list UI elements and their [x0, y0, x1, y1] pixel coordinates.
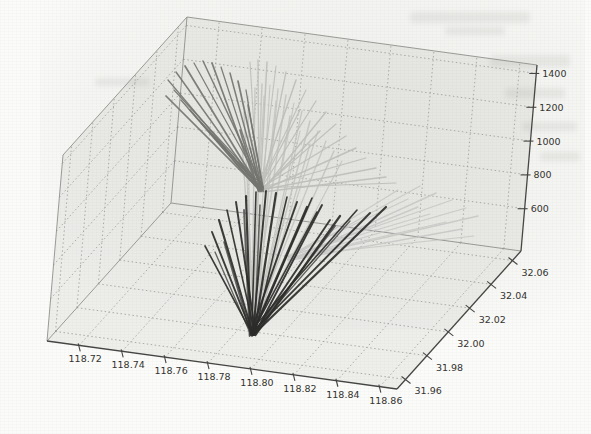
z-tick-label: 800 [534, 169, 552, 180]
y-tick-label: 32.02 [479, 314, 506, 325]
x-tick-label: 118.72 [69, 353, 102, 364]
x-tick-label: 118.76 [154, 365, 187, 376]
z-tick-label: 1000 [536, 136, 560, 147]
x-tick-label: 118.78 [197, 371, 230, 382]
3d-line-plot: 118.72118.74118.76118.78118.80118.82118.… [0, 0, 591, 434]
x-tick-label: 118.80 [240, 377, 273, 388]
y-tick-label: 31.96 [415, 385, 442, 396]
z-tick-label: 1400 [542, 68, 566, 79]
y-tick-label: 31.98 [436, 362, 463, 373]
z-tick-label: 1200 [539, 102, 563, 113]
scanned-page: 118.72118.74118.76118.78118.80118.82118.… [0, 0, 591, 434]
x-tick-label: 118.84 [326, 389, 359, 400]
axes-panes [47, 17, 537, 389]
y-tick-label: 32.00 [457, 338, 484, 349]
x-tick-label: 118.86 [369, 395, 402, 406]
y-tick-label: 32.06 [521, 267, 548, 278]
z-tick-label: 600 [531, 203, 549, 214]
y-tick-label: 32.04 [500, 290, 527, 301]
x-tick-label: 118.82 [283, 383, 316, 394]
x-tick-label: 118.74 [112, 359, 145, 370]
